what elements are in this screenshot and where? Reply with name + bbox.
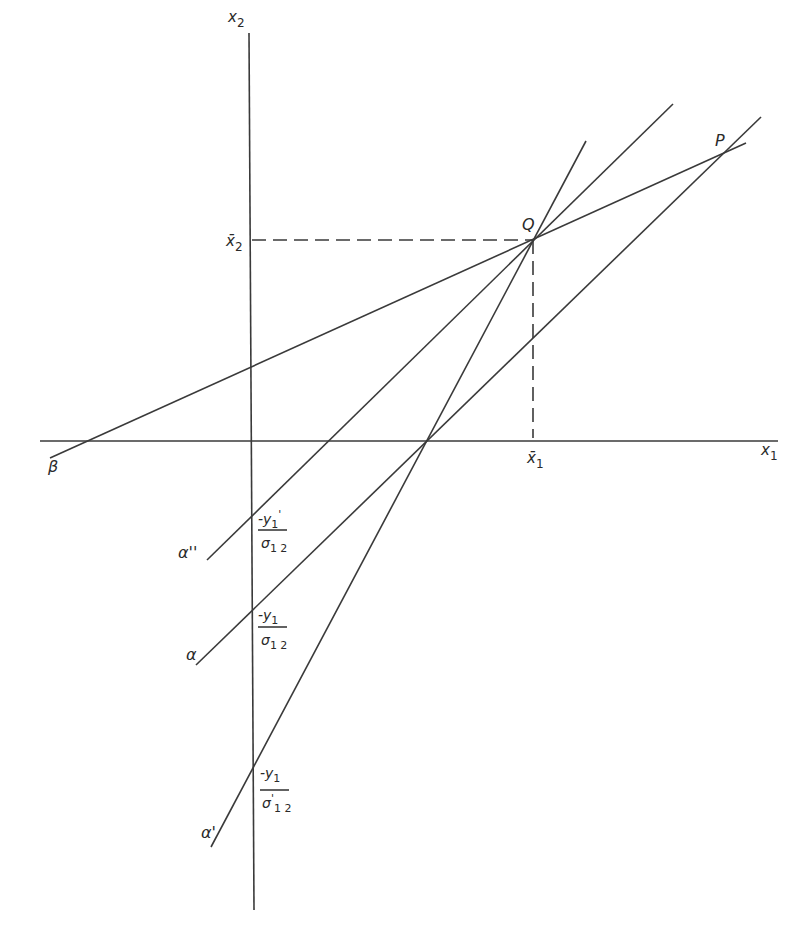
intercept-numerator: -y1 — [260, 765, 280, 785]
line-alpha-double-prime — [207, 104, 673, 560]
intercept-alpha: -y1 σ1 2 — [258, 607, 287, 652]
y-axis — [249, 33, 254, 910]
x1-bar-label: x̄1 — [526, 449, 544, 471]
alpha-double-prime-label: α'' — [178, 543, 197, 562]
line-alpha — [196, 117, 761, 665]
point-p-label: P — [715, 131, 725, 150]
intercept-denominator: σ1 2 — [261, 632, 287, 652]
x2-bar-label: x̄2 — [225, 232, 243, 254]
intercept-numerator: -y1 — [258, 607, 278, 627]
intercept-denominator: σ1 2 — [261, 535, 287, 555]
line-alpha-prime — [211, 141, 586, 847]
intercept-alpha-prime: -y1 σ'1 2 — [260, 765, 291, 815]
diagram-canvas: x2 x1 x̄2 x̄1 Q P β α'' α α' -y1' σ1 2 -… — [0, 0, 809, 941]
y-axis-label: x2 — [227, 8, 245, 30]
line-beta — [50, 143, 746, 458]
intercept-denominator: σ'1 2 — [262, 792, 291, 815]
alpha-label: α — [186, 645, 197, 664]
point-q-label: Q — [522, 215, 535, 234]
intercept-numerator: -y1' — [258, 508, 281, 531]
intercept-alpha-double-prime: -y1' σ1 2 — [258, 508, 287, 555]
alpha-prime-label: α' — [201, 823, 216, 842]
x-axis-label: x1 — [760, 441, 778, 463]
beta-label: β — [47, 457, 58, 476]
